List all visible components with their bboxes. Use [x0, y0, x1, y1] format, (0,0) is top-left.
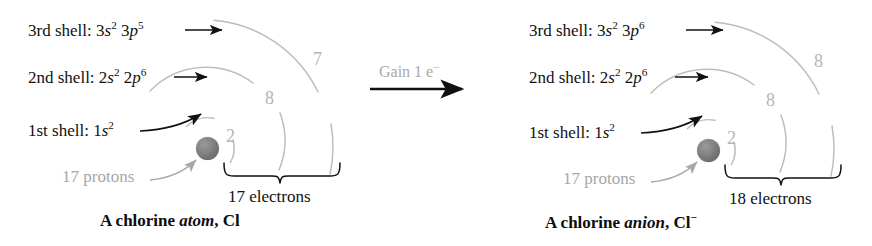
right-shell3-arc-upper [715, 22, 819, 94]
left-protons-label: 17 protons [62, 168, 134, 185]
left-shell1-label: 1st shell: 1s2 [28, 122, 114, 139]
left-shell-arcs [150, 20, 333, 174]
left-nucleus [196, 137, 219, 160]
left-shell2-count: 8 [265, 89, 274, 107]
left-shell1-pointer-arrow [140, 114, 201, 131]
left-electrons-label: 17 electrons [228, 188, 311, 205]
left-shell1-count: 2 [226, 127, 235, 145]
right-shell3-count: 8 [814, 52, 823, 70]
right-shell-arcs [651, 22, 834, 176]
left-shell3-arc-lower [330, 124, 333, 174]
right-shell1-count: 2 [727, 129, 736, 147]
right-electrons-label: 18 electrons [729, 190, 812, 207]
left-electrons-brace [224, 163, 340, 183]
left-shell2-arc-lower [279, 113, 285, 170]
left-shell3-count: 7 [313, 50, 322, 68]
right-electrons-brace [725, 165, 841, 185]
right-shell1-pointer-arrow [641, 116, 702, 133]
right-nucleus [697, 139, 720, 162]
left-shell1-arc-upper [187, 118, 215, 127]
right-protons-pointer-arrow [651, 162, 697, 182]
right-shell1-arc-upper [688, 120, 716, 129]
left-shell3-arc-upper [214, 20, 318, 92]
left-protons-pointer-arrow [150, 160, 196, 180]
right-protons-label: 17 protons [563, 170, 635, 187]
reaction-label: Gain 1 e− [379, 64, 440, 80]
right-shell3-label: 3rd shell: 3s2 3p6 [529, 22, 645, 39]
right-shell2-label: 2nd shell: 2s2 2p6 [529, 69, 647, 86]
right-caption: A chlorine anion, Cl− [545, 214, 697, 231]
right-shell2-arc-upper [651, 69, 754, 93]
right-shell2-count: 8 [766, 91, 775, 109]
left-shell2-arc-upper [150, 67, 253, 91]
left-shell2-label: 2nd shell: 2s2 2p6 [28, 69, 146, 86]
right-shell1-label: 1st shell: 1s2 [529, 124, 615, 141]
left-caption: A chlorine atom, Cl [100, 212, 240, 229]
figure-canvas: 3rd shell: 3s2 3p5 2nd shell: 2s2 2p6 1s… [0, 0, 872, 246]
right-shell2-arc-lower [780, 115, 786, 172]
right-shell3-arc-lower [831, 126, 834, 176]
left-shell3-label: 3rd shell: 3s2 3p5 [28, 22, 144, 39]
